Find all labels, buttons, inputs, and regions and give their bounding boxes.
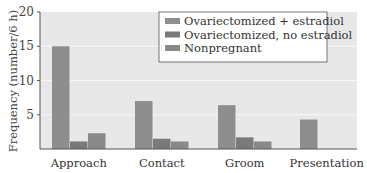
bar (52, 46, 70, 149)
x-category-label: Contact (139, 156, 185, 170)
legend-swatch (165, 18, 180, 24)
y-tick-label: 10 (19, 74, 34, 88)
bar (88, 133, 106, 149)
bar (254, 141, 272, 149)
bar (70, 141, 88, 149)
legend: Ovariectomized + estradiolOvariectomized… (159, 12, 352, 62)
x-category-label: Groom (225, 156, 265, 170)
legend-label: Nonpregnant (184, 41, 262, 55)
legend-label: Ovariectomized, no estradiol (184, 28, 352, 42)
y-tick-label: 5 (26, 108, 34, 122)
bar (135, 101, 153, 149)
legend-swatch (165, 32, 180, 38)
y-tick-label: 15 (19, 39, 34, 53)
x-category-label: Approach (50, 156, 108, 170)
bar (153, 139, 171, 149)
legend-swatch (165, 45, 180, 51)
bar (236, 137, 254, 149)
y-axis-label: Frequency (number/6 h) (6, 10, 20, 152)
x-category-label: Presentation (290, 156, 365, 170)
y-tick-label: 20 (19, 5, 34, 19)
legend-label: Ovariectomized + estradiol (184, 14, 344, 28)
x-category-labels: ApproachContactGroomPresentation (50, 156, 365, 170)
bar (218, 105, 236, 149)
bar (171, 141, 189, 149)
bar (300, 120, 318, 149)
y-tick-labels: 5101520 (19, 5, 40, 122)
bar-chart: 5101520 ApproachContactGroomPresentation… (0, 0, 367, 173)
